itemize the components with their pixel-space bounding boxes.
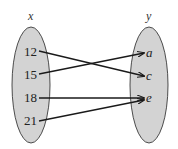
codomain-element-a: a <box>146 45 153 60</box>
domain-set: x 12 15 18 21 <box>12 9 50 143</box>
domain-element-15: 15 <box>24 67 37 82</box>
codomain-element-e: e <box>146 90 152 105</box>
arrow-15-to-a <box>39 53 144 74</box>
domain-element-12: 12 <box>24 44 37 59</box>
domain-set-label: x <box>27 9 34 23</box>
domain-element-21: 21 <box>24 113 37 128</box>
codomain-set: y a c e <box>130 9 168 143</box>
arrow-21-to-e <box>39 100 144 121</box>
mapping-diagram: x 12 15 18 21 y a c e <box>0 0 178 149</box>
mapping-arrows <box>39 51 144 121</box>
codomain-element-c: c <box>146 68 152 83</box>
codomain-set-label: y <box>145 9 152 23</box>
domain-element-18: 18 <box>24 90 37 105</box>
